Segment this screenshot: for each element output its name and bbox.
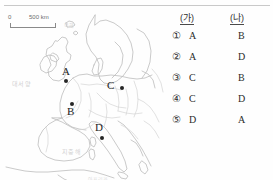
map-point-dot-a <box>64 79 68 83</box>
choice-number-1: ① <box>172 31 181 41</box>
choice-number-2: ② <box>172 52 181 62</box>
scale-max-label: 500 km <box>29 14 49 20</box>
choice-3-ga: C <box>189 73 196 83</box>
map-point-label-c: C <box>107 80 114 91</box>
map-point-dot-c <box>120 86 124 90</box>
map-point-label-d: D <box>95 122 103 133</box>
region-label-africa: 아프리카 <box>88 177 108 180</box>
scale-zero-label: 0 <box>8 14 11 20</box>
choice-1-ga: A <box>189 31 196 41</box>
sea-label-atlantic: 대서양 <box>12 81 31 87</box>
choice-number-4: ④ <box>172 94 181 104</box>
answer-choice-3[interactable]: ③ C B <box>172 70 271 91</box>
question-figure-page: 0 500 km 대서양 지중해 북해 아프리카 A B C D (가) (나)… <box>0 0 273 180</box>
answer-choices-table: (가) (나) ① A B ② A D ③ C B ④ C D ⑤ D A <box>172 14 271 144</box>
choice-1-na: B <box>238 31 245 41</box>
column-header-ga: (가) <box>180 14 194 25</box>
choice-2-ga: A <box>189 52 196 62</box>
map-scale-bar: 0 500 km <box>8 14 66 30</box>
europe-map-figure: 0 500 km 대서양 지중해 북해 아프리카 A B C D <box>0 9 170 180</box>
answer-choice-1[interactable]: ① A B <box>172 28 271 49</box>
choice-5-ga: D <box>189 115 196 125</box>
map-point-label-b: B <box>67 106 74 117</box>
answer-choice-5[interactable]: ⑤ D A <box>172 112 271 133</box>
column-header-na: (나) <box>230 14 244 25</box>
sea-label-north-sea: 북해 <box>64 23 74 28</box>
choice-4-ga: C <box>189 94 196 104</box>
sea-label-mediterranean: 지중해 <box>62 149 81 155</box>
answer-choice-2[interactable]: ② A D <box>172 49 271 70</box>
choice-number-3: ③ <box>172 73 181 83</box>
choice-3-na: B <box>238 73 245 83</box>
answer-table-header: (가) (나) <box>172 14 271 28</box>
scale-rule <box>10 23 56 28</box>
choice-number-5: ⑤ <box>172 115 181 125</box>
page-top-rule <box>4 5 270 6</box>
choice-4-na: D <box>238 94 245 104</box>
europe-map-outline <box>0 9 170 180</box>
map-point-label-a: A <box>62 66 70 77</box>
answer-choice-4[interactable]: ④ C D <box>172 91 271 112</box>
map-point-dot-d <box>100 136 104 140</box>
choice-5-na: A <box>238 115 245 125</box>
choice-2-na: D <box>238 52 245 62</box>
